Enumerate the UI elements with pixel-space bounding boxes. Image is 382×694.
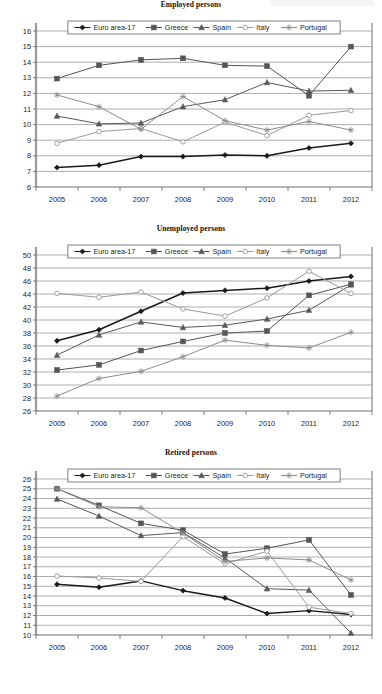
data-point: [55, 574, 60, 579]
x-tick-label-2010: 2010: [259, 643, 275, 652]
chart-employed-persons: Employed persons 67891011121314151620052…: [0, 0, 382, 224]
x-tick-label-2005: 2005: [49, 643, 65, 652]
y-tick-label: 25: [23, 484, 31, 493]
chart-svg-employed: 6789101112131415162005200620072008200920…: [0, 9, 382, 224]
y-tick-label: 19: [23, 543, 31, 552]
y-tick-label: 15: [23, 42, 31, 51]
data-point: [222, 288, 227, 293]
data-point: [264, 153, 269, 158]
data-point: [265, 296, 270, 301]
legend-label-spain: Spain: [213, 247, 231, 256]
data-point: [97, 63, 102, 68]
data-point: [180, 290, 185, 295]
legend-label-italy: Italy: [256, 471, 270, 480]
legend: Euro area-17GreeceSpainItalyPortugal: [68, 469, 340, 482]
data-point: [306, 307, 312, 312]
data-point: [307, 269, 312, 274]
x-tick-label-2011: 2011: [301, 643, 317, 652]
data-point: [54, 113, 60, 118]
data-point: [265, 64, 270, 69]
data-point: [97, 576, 102, 581]
y-tick-label: 38: [23, 329, 31, 338]
data-point: [54, 92, 60, 98]
legend: Euro area-17GreeceSpainItalyPortugal: [68, 21, 340, 34]
y-tick-label: 11: [23, 621, 31, 630]
data-point: [139, 579, 144, 584]
data-point: [349, 44, 354, 49]
series-line-portugal: [57, 489, 351, 580]
legend-marker-1: [151, 25, 156, 30]
y-tick-label: 42: [23, 303, 31, 312]
legend-marker-4: [286, 248, 292, 254]
chart-retired-persons: Retired persons 101112131415161718192021…: [0, 448, 382, 672]
y-tick-label: 16: [23, 27, 31, 36]
data-point: [222, 118, 228, 124]
data-point: [307, 293, 312, 298]
chart-svg-retired: 1011121314151617181920212223242526200520…: [0, 457, 382, 672]
data-point: [348, 127, 354, 133]
x-tick-label-2011: 2011: [301, 419, 317, 428]
data-point: [307, 113, 312, 118]
data-point: [264, 127, 270, 133]
x-tick-label-2012: 2012: [343, 195, 359, 204]
x-tick-label-2008: 2008: [175, 419, 191, 428]
data-point: [265, 133, 270, 138]
y-tick-label: 44: [23, 290, 31, 299]
data-point: [55, 141, 60, 146]
data-point: [97, 129, 102, 134]
plot-area-employed: 6789101112131415162005200620072008200920…: [0, 9, 382, 224]
x-tick-label-2005: 2005: [49, 419, 65, 428]
data-point: [264, 342, 270, 348]
chart-title-unemployed: Unemployed persons: [0, 224, 382, 233]
legend-label-portugal: Portugal: [300, 471, 327, 480]
data-point: [97, 295, 102, 300]
x-tick-label-2007: 2007: [133, 643, 149, 652]
legend-label-euro-area-17: Euro area-17: [93, 247, 135, 256]
y-tick-label: 17: [23, 562, 31, 571]
legend-marker-3: [243, 25, 248, 30]
y-tick-label: 50: [23, 251, 31, 260]
legend-label-greece: Greece: [165, 247, 189, 256]
y-tick-label: 7: [27, 167, 31, 176]
data-point: [139, 348, 144, 353]
data-point: [54, 393, 60, 399]
y-tick-label: 22: [23, 514, 31, 523]
data-point: [138, 368, 144, 374]
series-markers-italy: [55, 534, 354, 616]
data-point: [264, 555, 270, 561]
data-point: [264, 80, 270, 85]
series-markers-euro-area-17: [54, 578, 353, 617]
x-tick-label-2010: 2010: [259, 419, 275, 428]
data-point: [138, 154, 143, 159]
y-tick-label: 9: [27, 136, 31, 145]
chart-title-retired: Retired persons: [0, 448, 382, 457]
y-tick-label: 12: [23, 89, 31, 98]
data-point: [55, 291, 60, 296]
legend-label-spain: Spain: [213, 23, 231, 32]
data-point: [54, 352, 60, 357]
data-point: [348, 329, 354, 335]
y-tick-label: 21: [23, 523, 31, 532]
legend-label-euro-area-17: Euro area-17: [93, 471, 135, 480]
x-tick-label-2006: 2006: [91, 195, 107, 204]
data-point: [181, 56, 186, 61]
x-tick-label-2008: 2008: [175, 195, 191, 204]
x-tick-label-2012: 2012: [343, 419, 359, 428]
legend-marker-1: [151, 249, 156, 254]
series-line-spain: [57, 499, 351, 633]
data-point: [54, 338, 59, 343]
legend-label-portugal: Portugal: [300, 247, 327, 256]
data-point: [349, 291, 354, 296]
data-point: [349, 611, 354, 616]
legend-label-italy: Italy: [256, 247, 270, 256]
data-point: [307, 93, 312, 98]
legend-label-greece: Greece: [165, 23, 189, 32]
series-markers-portugal: [54, 486, 354, 583]
series-line-euro-area-17: [57, 143, 351, 167]
y-tick-label: 10: [23, 120, 31, 129]
data-point: [181, 307, 186, 312]
data-point: [55, 76, 60, 81]
data-point: [306, 118, 312, 124]
data-point: [96, 375, 102, 381]
data-point: [223, 314, 228, 319]
